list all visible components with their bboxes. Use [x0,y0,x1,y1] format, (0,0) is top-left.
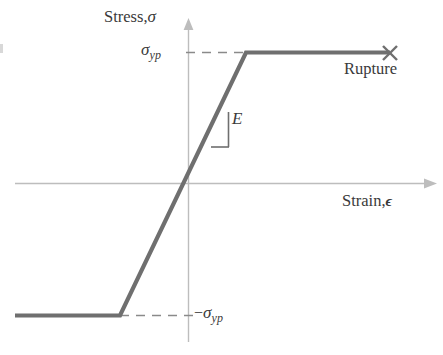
x-axis-label-text: Strain, [342,191,386,210]
minus-sign-glyph: − [194,304,203,321]
y-axis-label-text: Stress, [104,7,148,26]
x-axis-arrowhead [424,179,437,189]
sigma-symbol: σ [148,7,156,26]
rupture-label: Rupture [344,61,397,78]
x-axis-label: Strain,ϵ [342,193,392,210]
y-axis-label: Stress,σ [104,8,156,26]
stress-strain-figure: Stress,σ Strain,ϵ σyp −σyp Rupture E [0,0,443,355]
epsilon-symbol: ϵ [386,192,393,209]
yield-subscript-negative: yp [211,311,223,325]
x-axis-group [15,179,437,189]
modulus-label: E [232,110,242,127]
scan-edge-artifact [0,44,3,53]
yield-stress-negative-label: −σyp [194,304,223,324]
y-axis-arrowhead [184,18,194,30]
yield-subscript-positive: yp [149,48,161,62]
chart-canvas [0,0,443,355]
yield-stress-positive-label: σyp [141,41,161,61]
